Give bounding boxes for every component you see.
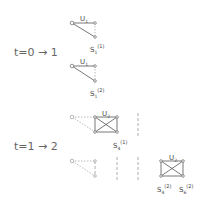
node — [94, 160, 97, 163]
node — [94, 36, 97, 39]
node — [70, 64, 74, 68]
edge — [72, 66, 95, 81]
state-label: S1(2) — [90, 87, 104, 99]
step-label-0-1: t=0 → 1 — [14, 46, 58, 59]
unit-label: U2 — [169, 154, 177, 163]
node — [70, 159, 74, 163]
node — [70, 21, 74, 25]
graph-1: U1 S1(1) — [70, 15, 104, 55]
state-label-b: S6(2) — [179, 183, 193, 195]
node — [160, 160, 163, 163]
graph-2: U1 S1(2) — [70, 58, 104, 99]
diagram-canvas: t=0 → 1 t=1 → 2 U1 S1(1) U1 S1(2) — [0, 0, 205, 208]
node — [182, 160, 185, 163]
state-label-a: S4(2) — [157, 183, 171, 195]
state-label: S4(1) — [113, 139, 127, 151]
node — [116, 131, 119, 134]
node — [160, 175, 163, 178]
unit-label: U1 — [80, 15, 88, 24]
edge-dotted — [72, 161, 95, 176]
node — [70, 115, 74, 119]
edge-dotted — [72, 117, 95, 132]
graph-3: U2 S4(1) — [70, 110, 138, 151]
state-label: S1(1) — [90, 43, 104, 55]
node — [94, 116, 97, 119]
node — [116, 116, 119, 119]
node — [94, 22, 97, 25]
node — [94, 175, 97, 178]
node — [94, 65, 97, 68]
node — [94, 80, 97, 83]
graph-4: U2 S4(2) S6(2) — [70, 154, 193, 195]
step-label-1-2: t=1 → 2 — [14, 140, 58, 153]
node — [182, 175, 185, 178]
unit-label: U1 — [80, 58, 88, 67]
node — [94, 131, 97, 134]
edge — [72, 23, 95, 37]
unit-label: U2 — [102, 110, 110, 119]
